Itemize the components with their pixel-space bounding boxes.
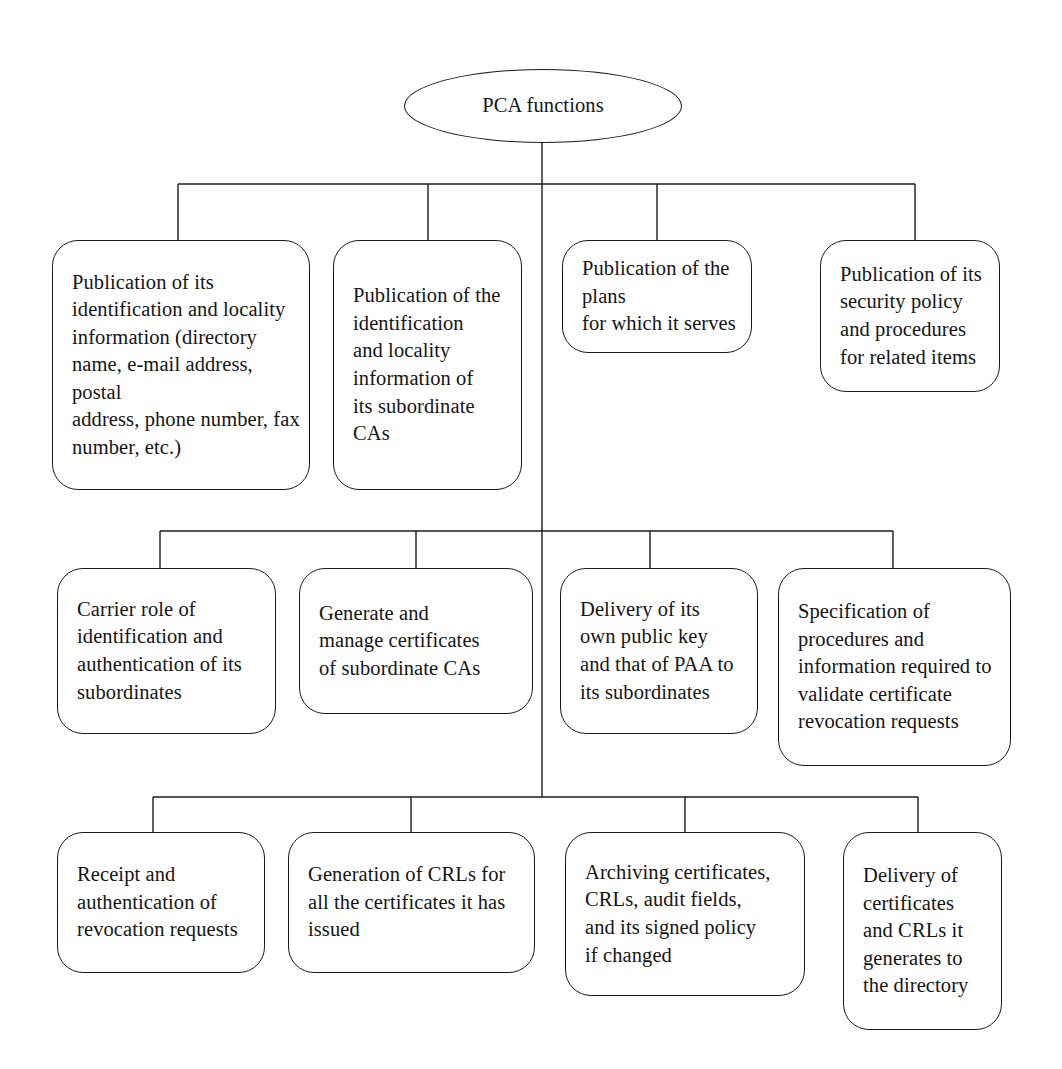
- function-node-pca-fn-3[interactable]: Publication of the plans for which it se…: [562, 240, 752, 353]
- function-node-pca-fn-4[interactable]: Publication of its security policy and p…: [820, 240, 1000, 392]
- function-node-label: Publication of the plans for which it se…: [563, 255, 751, 338]
- function-node-label: Publication of the identification and lo…: [334, 282, 509, 447]
- function-node-label: Generate and manage certificates of subo…: [300, 600, 488, 683]
- function-node-pca-fn-5[interactable]: Carrier role of identification and authe…: [57, 568, 276, 734]
- function-node-label: Specification of procedures and informat…: [779, 598, 1000, 736]
- function-node-pca-fn-7[interactable]: Delivery of its own public key and that …: [560, 568, 758, 734]
- function-node-label: Archiving certificates, CRLs, audit fiel…: [566, 859, 779, 969]
- function-node-label: Receipt and authentication of revocation…: [58, 861, 246, 944]
- function-node-pca-fn-1[interactable]: Publication of its identification and lo…: [52, 240, 310, 490]
- root-node-label: PCA functions: [482, 92, 603, 120]
- function-node-label: Delivery of certificates and CRLs it gen…: [844, 862, 976, 1000]
- function-node-label: Publication of its identification and lo…: [53, 269, 309, 462]
- function-node-pca-fn-10[interactable]: Generation of CRLs for all the certifica…: [288, 832, 535, 973]
- diagram-canvas: PCA functions Publication of its identif…: [0, 0, 1062, 1069]
- function-node-label: Generation of CRLs for all the certifica…: [289, 861, 513, 944]
- function-node-pca-fn-8[interactable]: Specification of procedures and informat…: [778, 568, 1011, 766]
- function-node-label: Delivery of its own public key and that …: [561, 596, 742, 706]
- function-node-pca-fn-6[interactable]: Generate and manage certificates of subo…: [299, 568, 533, 714]
- function-node-pca-fn-11[interactable]: Archiving certificates, CRLs, audit fiel…: [565, 832, 805, 996]
- function-node-pca-fn-12[interactable]: Delivery of certificates and CRLs it gen…: [843, 832, 1002, 1030]
- root-node-pca-functions[interactable]: PCA functions: [404, 69, 682, 143]
- function-node-label: Carrier role of identification and authe…: [58, 596, 250, 706]
- function-node-pca-fn-2[interactable]: Publication of the identification and lo…: [333, 240, 522, 490]
- function-node-pca-fn-9[interactable]: Receipt and authentication of revocation…: [57, 832, 265, 973]
- function-node-label: Publication of its security policy and p…: [821, 261, 990, 371]
